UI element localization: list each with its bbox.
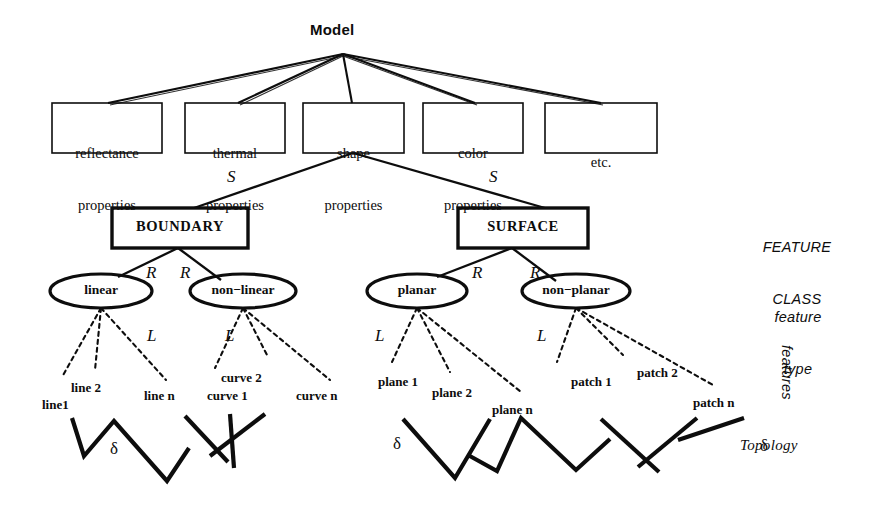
- edge-label-r-nonplanar: R: [530, 264, 540, 282]
- edge-model-shape: [343, 54, 352, 103]
- level-annotation-line1: FEATURE: [742, 239, 852, 256]
- topology-stroke-right-d: [638, 418, 697, 467]
- feature-label-patch-n: patch n: [693, 396, 735, 410]
- box-label-shape-properties: shape properties: [303, 111, 404, 248]
- edges-boundary-to-types: [118, 248, 221, 280]
- topology-label-delta-2: δ: [393, 435, 401, 453]
- topology-stroke-right-b: [468, 418, 610, 471]
- box-label-line1: color: [423, 145, 523, 162]
- edge-nonplanar-patch1: [557, 308, 576, 362]
- edge-model-etc: [343, 54, 601, 103]
- box-label-line2: properties: [185, 197, 285, 214]
- edge-label-l-nonlinear: L: [225, 327, 234, 345]
- type-label-non-linear: non−linear: [190, 283, 296, 298]
- feature-label-plane-n: plane n: [492, 403, 533, 417]
- feature-label-plane1: plane 1: [378, 375, 418, 389]
- box-label-line2: properties: [423, 197, 523, 214]
- edge-label-l-linear: L: [147, 327, 156, 345]
- edge-nonlinear-curve2: [243, 308, 267, 355]
- type-label-non-planar: non−planar: [522, 283, 630, 298]
- topology-stroke-left-a: [72, 418, 189, 481]
- feature-label-patch2: patch 2: [637, 366, 678, 380]
- topology-stroke-right-a: [403, 419, 490, 478]
- type-label-linear: linear: [51, 283, 151, 298]
- edges-model-to-properties: [108, 54, 601, 103]
- feature-label-line2: line 2: [71, 381, 101, 395]
- edge-planar-plane-n: [417, 308, 521, 392]
- edge-model-thermal: [238, 54, 343, 103]
- edge-planar-plane2: [417, 308, 450, 372]
- edge-label-s-right: S: [489, 168, 498, 186]
- edge-label-l-planar: L: [375, 327, 384, 345]
- class-label-surface: SURFACE: [458, 219, 588, 235]
- feature-label-line1: line1: [42, 398, 69, 412]
- level-annotation-features: features: [778, 345, 794, 400]
- edge-model-color: [343, 54, 475, 103]
- level-annotation-line1: feature: [748, 309, 848, 326]
- box-label-line1: thermal: [185, 145, 285, 162]
- topology-stroke-right-c: [601, 419, 659, 472]
- type-label-planar: planar: [367, 283, 467, 298]
- box-label-etc: etc.: [545, 120, 657, 206]
- feature-label-plane2: plane 2: [432, 386, 472, 400]
- box-label-line1: reflectance: [52, 145, 162, 162]
- topology-stroke-right-e: [678, 418, 744, 440]
- feature-label-curve-n: curve n: [296, 389, 338, 403]
- edge-label-r-linear: R: [146, 264, 156, 282]
- edge-label-r-planar: R: [472, 264, 482, 282]
- edge-label-l-nonplanar: L: [537, 327, 546, 345]
- edge-label-r-nonlinear: R: [180, 264, 190, 282]
- topology-stroke-left-d: [210, 414, 265, 456]
- level-annotation-line2: type: [748, 361, 848, 378]
- feature-label-line-n: line n: [144, 389, 175, 403]
- box-label-line2: properties: [303, 197, 404, 214]
- feature-label-curve1: curve 1: [207, 389, 248, 403]
- edge-model-reflectance: [108, 54, 343, 103]
- diagram-canvas: Model reflectance properties thermal pro…: [0, 0, 869, 515]
- topology-stroke-left-b: [185, 416, 228, 462]
- edge-nonplanar-patch2: [576, 308, 623, 355]
- page-title: Model: [310, 22, 354, 38]
- diagram-vector-layer: [0, 0, 869, 515]
- box-label-line1: shape: [303, 145, 404, 162]
- box-label-line2: properties: [52, 197, 162, 214]
- feature-label-curve2: curve 2: [221, 371, 262, 385]
- topology-label-delta-1: δ: [110, 440, 118, 458]
- topology-polylines: [72, 414, 744, 481]
- edges-model-accent: [110, 56, 603, 105]
- edge-planar-plane1: [392, 308, 417, 362]
- box-label-line1: etc.: [545, 154, 657, 171]
- level-annotation-feature-type: feature type: [748, 274, 848, 413]
- level-annotation-topology: Topology: [740, 437, 798, 453]
- feature-label-patch1: patch 1: [571, 375, 612, 389]
- edge-label-s-left: S: [227, 168, 236, 186]
- class-label-boundary: BOUNDARY: [112, 219, 248, 235]
